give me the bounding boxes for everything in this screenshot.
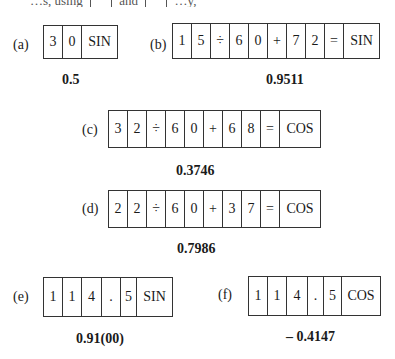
function-key: COS — [280, 191, 320, 227]
result-value: 0.9511 — [266, 72, 304, 88]
key: 5 — [324, 277, 342, 315]
key: 1 — [44, 278, 63, 316]
key: 5 — [121, 278, 137, 316]
function-key: COS — [342, 277, 380, 315]
function-key: SIN — [82, 26, 117, 58]
key: ÷ — [211, 24, 230, 58]
key: 1 — [63, 278, 82, 316]
key: + — [268, 24, 287, 58]
key: 0 — [185, 111, 204, 147]
header-text-end: …y, — [175, 0, 197, 7]
function-key: SIN — [137, 278, 172, 316]
key: 6 — [230, 24, 249, 58]
keystroke-sequence: 1 5 ÷ 6 0 + 7 2 = SIN — [172, 23, 380, 59]
keystroke-sequence: 3 0 SIN — [43, 25, 118, 59]
key: 7 — [242, 191, 261, 227]
keystroke-sequence: 3 2 ÷ 6 0 + 6 8 = COS — [108, 110, 321, 148]
key: 1 — [173, 24, 192, 58]
problem-label: (e) — [13, 289, 29, 305]
problem-label: (b) — [150, 37, 166, 53]
key: 4 — [82, 278, 102, 316]
keystroke-sequence: 1 1 4 . 5 SIN — [43, 277, 173, 317]
key: 5 — [192, 24, 211, 58]
keystroke-sequence: 1 1 4 . 5 COS — [248, 276, 381, 316]
key: 4 — [287, 277, 308, 315]
header-text-start: …s, using — [30, 0, 83, 7]
inline-key-box — [90, 0, 112, 7]
key: 2 — [306, 24, 325, 58]
problem-label: (f) — [218, 287, 232, 303]
key: ÷ — [147, 191, 166, 227]
key: 2 — [128, 111, 147, 147]
key: 0 — [185, 191, 204, 227]
result-value: 0.3746 — [176, 163, 215, 179]
function-key: COS — [280, 111, 320, 147]
keystroke-sequence: 2 2 ÷ 6 0 + 3 7 = COS — [108, 190, 321, 228]
key: 0 — [249, 24, 268, 58]
key: . — [102, 278, 121, 316]
key: 8 — [242, 111, 261, 147]
function-key: SIN — [344, 24, 379, 58]
key: 3 — [109, 111, 128, 147]
problem-label: (c) — [82, 122, 98, 138]
inline-key-box — [145, 0, 167, 7]
clipped-header-line: …s, using and …y, — [30, 0, 230, 7]
key: 2 — [109, 191, 128, 227]
problem-label: (a) — [13, 37, 29, 53]
key: 7 — [287, 24, 306, 58]
result-value: 0.7986 — [177, 241, 216, 257]
key: ÷ — [147, 111, 166, 147]
key: + — [204, 191, 223, 227]
key: 3 — [223, 191, 242, 227]
key: 3 — [44, 26, 63, 58]
key: 1 — [249, 277, 268, 315]
key: . — [308, 277, 324, 315]
key: 6 — [166, 191, 185, 227]
key: = — [325, 24, 344, 58]
key: = — [261, 191, 280, 227]
result-value: 0.5 — [62, 72, 80, 88]
problem-label: (d) — [82, 201, 98, 217]
key: 6 — [223, 111, 242, 147]
result-value: 0.91(00) — [76, 331, 124, 347]
key: 0 — [63, 26, 82, 58]
header-text-mid: and — [119, 0, 138, 7]
key: 2 — [128, 191, 147, 227]
key: 1 — [268, 277, 287, 315]
key: + — [204, 111, 223, 147]
result-value: – 0.4147 — [286, 329, 335, 345]
key: = — [261, 111, 280, 147]
key: 6 — [166, 111, 185, 147]
